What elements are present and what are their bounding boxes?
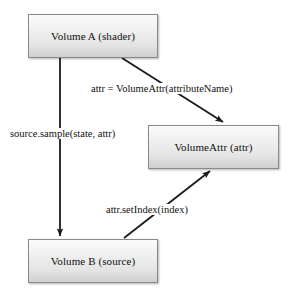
diagram-canvas: Volume A (shader) VolumeAttr (attr) Volu… [0,0,293,289]
edge-label-attr-assign: attr = VolumeAttr(attributeName) [89,83,234,94]
node-volume-attr[interactable]: VolumeAttr (attr) [148,125,279,169]
node-volume-b-label: Volume B (source) [51,255,136,267]
node-volume-attr-label: VolumeAttr (attr) [174,141,252,153]
node-volume-a-label: Volume A (shader) [51,30,135,42]
node-volume-b[interactable]: Volume B (source) [28,239,158,283]
edge-label-set-index: attr.setIndex(index) [104,204,190,215]
edge-label-source-sample: source.sample(state, attr) [8,128,117,139]
node-volume-a[interactable]: Volume A (shader) [28,14,158,58]
